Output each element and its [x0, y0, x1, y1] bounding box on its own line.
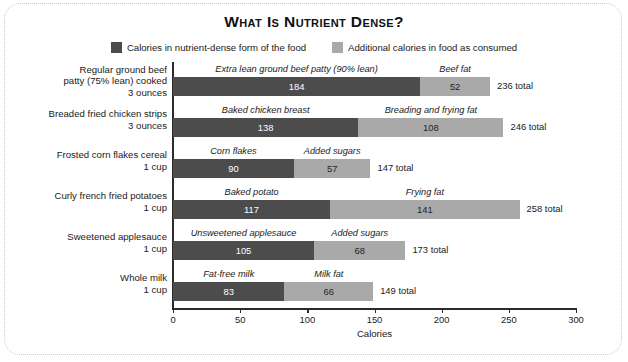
bar-segment-additional-calories: 141 [330, 200, 519, 219]
category-label: Whole milk 1 cup [5, 272, 167, 295]
segment-caption-additional-calories: Breading and frying fat [385, 105, 477, 115]
category-label: Curly french fried potatoes 1 cup [5, 190, 167, 213]
row-total-label: 246 total [510, 121, 546, 132]
x-tick-label: 200 [434, 314, 450, 325]
legend-item-additional-calories: Additional calories in food as consumed [332, 42, 517, 53]
bar-segment-nutrient-dense: 184 [173, 77, 420, 96]
legend-swatch-dark-icon [111, 42, 122, 53]
legend-label-nutrient-dense: Calories in nutrient-dense form of the f… [127, 42, 306, 53]
segment-caption-nutrient-dense: Extra lean ground beef patty (90% lean) [215, 64, 377, 74]
legend-label-additional-calories: Additional calories in food as consumed [348, 42, 517, 53]
bar-segment-nutrient-dense: 105 [173, 241, 314, 260]
segment-caption-additional-calories: Added sugars [304, 146, 361, 156]
bar-row: 18452Extra lean ground beef patty (90% l… [173, 64, 576, 105]
segment-caption-nutrient-dense: Baked chicken breast [222, 105, 310, 115]
x-axis-title: Calories [173, 328, 576, 339]
x-tick-label: 50 [235, 314, 245, 325]
x-tick-label: 0 [170, 314, 175, 325]
segment-caption-additional-calories: Frying fat [406, 187, 444, 197]
bar-row: 8366Fat-free milkMilk fat149 total [173, 269, 576, 310]
category-label: Frosted corn flakes cereal 1 cup [5, 149, 167, 172]
nutrient-dense-chart-figure: What Is Nutrient Dense? Calories in nutr… [0, 0, 628, 362]
bar-segment-additional-calories: 52 [420, 77, 490, 96]
category-label: Sweetened applesauce 1 cup [5, 231, 167, 254]
segment-caption-nutrient-dense: Baked potato [225, 187, 279, 197]
bar-segment-nutrient-dense: 117 [173, 200, 330, 219]
segment-caption-nutrient-dense: Unsweetened applesauce [191, 228, 297, 238]
category-label: Breaded fried chicken strips 3 ounces [5, 108, 167, 131]
segment-caption-additional-calories: Beef fat [439, 64, 471, 74]
segment-caption-additional-calories: Milk fat [314, 269, 343, 279]
segment-caption-nutrient-dense: Fat-free milk [203, 269, 254, 279]
bar-segment-additional-calories: 66 [284, 282, 373, 301]
legend-item-nutrient-dense: Calories in nutrient-dense form of the f… [111, 42, 306, 53]
row-total-label: 258 total [527, 203, 563, 214]
bar-row: 117141Baked potatoFrying fat258 total [173, 187, 576, 228]
bar-segment-additional-calories: 68 [314, 241, 405, 260]
x-tick-label: 100 [300, 314, 316, 325]
x-tick-label: 250 [501, 314, 517, 325]
chart-legend: Calories in nutrient-dense form of the f… [0, 42, 628, 53]
bar-segment-nutrient-dense: 90 [173, 159, 294, 178]
bar-segment-nutrient-dense: 138 [173, 118, 358, 137]
chart-title: What Is Nutrient Dense? [0, 13, 628, 31]
x-tick-label: 150 [367, 314, 383, 325]
bar-segment-additional-calories: 108 [358, 118, 503, 137]
segment-caption-nutrient-dense: Corn flakes [210, 146, 256, 156]
segment-caption-additional-calories: Added sugars [331, 228, 388, 238]
bar-segment-additional-calories: 57 [294, 159, 371, 178]
x-tick [576, 308, 577, 313]
row-total-label: 236 total [497, 80, 533, 91]
row-total-label: 173 total [412, 244, 448, 255]
bar-row: 10568Unsweetened applesauceAdded sugars1… [173, 228, 576, 269]
row-total-label: 149 total [380, 285, 416, 296]
plot-area: 050100150200250300 18452Extra lean groun… [173, 62, 576, 308]
legend-swatch-light-icon [332, 42, 343, 53]
x-tick-label: 300 [568, 314, 584, 325]
bar-row: 138108Baked chicken breastBreading and f… [173, 105, 576, 146]
category-label: Regular ground beef patty (75% lean) coo… [5, 64, 167, 98]
bar-segment-nutrient-dense: 83 [173, 282, 284, 301]
bar-row: 9057Corn flakesAdded sugars147 total [173, 146, 576, 187]
row-total-label: 147 total [377, 162, 413, 173]
